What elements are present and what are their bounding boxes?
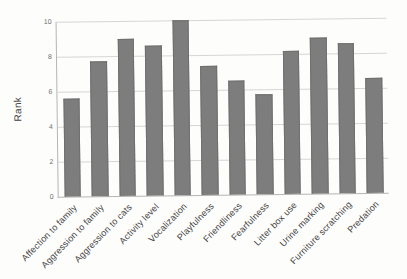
- bar-urine-marking: [310, 38, 328, 194]
- y-tick-label-2: 2: [31, 158, 53, 166]
- bar-activity-level: [145, 45, 163, 196]
- bar-aggression-to-cats: [117, 38, 135, 196]
- y-axis-title: Rank: [12, 97, 23, 122]
- y-axis-tick-labels: 0246810: [0, 0, 405, 2]
- bar-litter-box-use: [282, 50, 300, 194]
- bar-vocalization: [172, 20, 191, 195]
- bar-furniture-scratching: [337, 43, 355, 194]
- bar-fearfulness: [255, 94, 273, 194]
- bar-aggression-to-family: [90, 61, 108, 196]
- plot-area: [56, 18, 389, 198]
- y-tick-label-4: 4: [31, 123, 53, 131]
- bar-predation: [365, 77, 383, 193]
- x-axis-category-labels: Affection to familyAggression to familyA…: [0, 0, 405, 2]
- y-tick-label-0: 0: [32, 193, 54, 201]
- y-tick-label-8: 8: [30, 53, 52, 61]
- bar-playfulness: [200, 65, 218, 195]
- y-tick-label-10: 10: [30, 18, 52, 26]
- gridline-y-10: [57, 18, 387, 23]
- bar-affection-to-family: [63, 99, 81, 197]
- bar-friendliness: [228, 81, 246, 195]
- y-tick-label-6: 6: [30, 88, 52, 96]
- bar-chart-figure: Rank 0246810 Affection to familyAggressi…: [0, 0, 407, 279]
